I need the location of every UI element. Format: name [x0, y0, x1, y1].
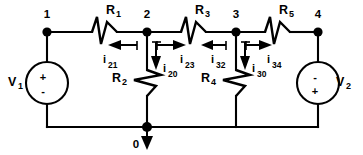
current-arrow-i23 — [157, 40, 186, 50]
resistor-r5-symbol — [265, 17, 290, 44]
resistor-r3-label: R — [195, 3, 204, 17]
source-v2-label: V — [336, 75, 345, 89]
ground-arrow-icon — [141, 129, 153, 150]
current-arrow-i30 — [240, 42, 250, 70]
resistor-r4-symbol — [223, 70, 250, 96]
node-dot-3 — [231, 27, 240, 36]
source-v2-sublabel: 2 — [346, 81, 351, 91]
source-v1-label: V — [8, 75, 17, 89]
circuit-diagram: R 1 R 3 R 5 R 2 R 4 — [0, 0, 363, 155]
current-sublabel-i20: 20 — [168, 69, 178, 79]
resistor-r3-sublabel: 3 — [205, 9, 210, 19]
source-v2-top-sign: - — [313, 71, 317, 83]
resistor-r2-sublabel: 2 — [122, 77, 127, 87]
current-sublabel-i21: 21 — [108, 60, 118, 70]
source-v2 — [297, 32, 339, 127]
resistor-r2-label: R — [112, 71, 121, 85]
resistor-r5-label: R — [279, 3, 288, 17]
resistor-r1-label: R — [106, 3, 115, 17]
node-label-3: 3 — [233, 8, 239, 20]
source-v1-top-sign: + — [40, 71, 46, 83]
current-label-i32: i — [211, 53, 214, 65]
node-dot-1 — [42, 27, 51, 36]
node-label-4: 4 — [315, 8, 322, 20]
current-label-i21: i — [103, 53, 106, 65]
resistor-r2-symbol — [134, 70, 161, 96]
current-sublabel-i23: 23 — [185, 60, 195, 70]
source-v2-body — [297, 62, 339, 104]
node-label-2: 2 — [144, 8, 150, 20]
resistor-r1-symbol — [92, 17, 117, 44]
source-v2-bottom-sign: + — [312, 85, 318, 97]
current-sublabel-i30: 30 — [257, 69, 267, 79]
node-label-1: 1 — [44, 8, 51, 20]
current-sublabel-i34: 34 — [272, 60, 282, 70]
current-label-i23: i — [180, 53, 183, 65]
node-dot-4 — [313, 27, 322, 36]
source-v1-sublabel: 1 — [18, 81, 23, 91]
current-sublabel-i32: 32 — [216, 60, 226, 70]
resistor-r4-sublabel: 4 — [211, 77, 216, 87]
node-label-0: 0 — [133, 138, 139, 150]
current-label-i34: i — [267, 53, 270, 65]
current-arrow-i32 — [201, 40, 226, 50]
source-v1-bottom-sign: - — [41, 85, 45, 97]
resistor-r3-symbol — [181, 17, 206, 44]
current-label-i20: i — [163, 62, 166, 74]
current-arrow-i20 — [151, 42, 161, 70]
current-label-i30: i — [252, 62, 255, 74]
circuit-canvas: R 1 R 3 R 5 R 2 R 4 — [0, 0, 363, 155]
current-arrow-i21 — [108, 40, 137, 50]
source-v1 — [26, 32, 68, 127]
resistor-r5-sublabel: 5 — [289, 9, 294, 19]
resistor-r4-label: R — [201, 71, 210, 85]
source-v1-body — [26, 62, 68, 104]
node-dot-2 — [142, 27, 151, 36]
resistor-r1-sublabel: 1 — [116, 9, 121, 19]
